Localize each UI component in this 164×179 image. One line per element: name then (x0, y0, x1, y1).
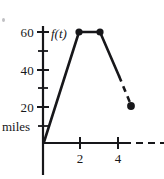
distance-vs-time-figure: 60 40 20 miles 2 4 f(t) (0, 0, 164, 179)
x-tick-label-2: 2 (70, 152, 90, 165)
curve-segment-rise (44, 32, 79, 142)
curve-label-ft: f(t) (51, 27, 67, 40)
curve-segment-fall-dashed (119, 76, 131, 105)
y-tick-label-40: 40 (4, 64, 34, 77)
x-tick-label-4: 4 (108, 152, 128, 165)
curve-segment-fall-solid (100, 32, 119, 76)
marker-plateau-end (96, 28, 103, 35)
y-tick-label-60: 60 (4, 26, 34, 39)
marker-curve-endpoint (127, 102, 135, 110)
y-tick-label-20: 20 (4, 101, 34, 114)
marker-plateau-start (75, 28, 82, 35)
y-axis-label-miles: miles (2, 120, 30, 133)
